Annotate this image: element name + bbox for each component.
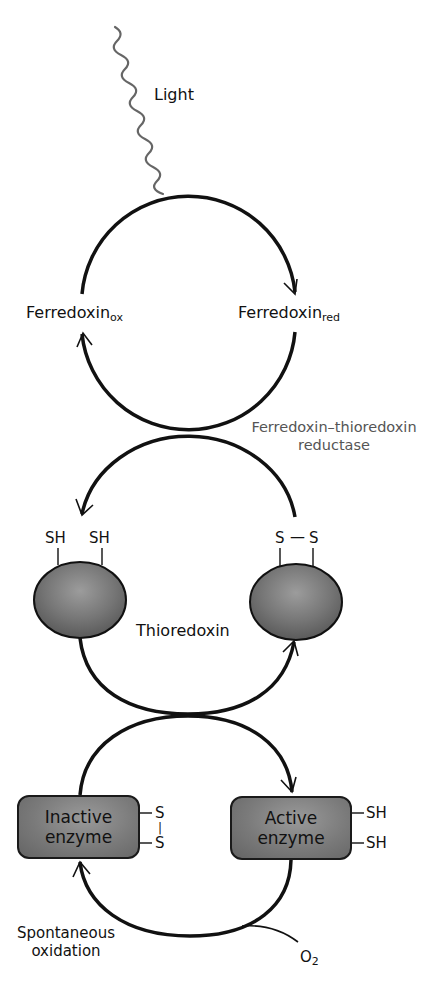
inactive-enzyme-box: Inactive enzyme — [17, 795, 140, 859]
s-group-1: S — [275, 530, 285, 546]
active-sh-group-1: SH — [366, 805, 387, 821]
sh-group-1: SH — [45, 530, 66, 546]
thioredoxin-label: Thioredoxin — [136, 622, 230, 640]
thioredoxin-reduced-oval — [34, 562, 126, 638]
thioredoxin-oxidized-oval — [250, 564, 342, 640]
disulfide-bond: — — [290, 529, 305, 545]
light-wave-icon — [114, 27, 163, 194]
inactive-s-group-2: S — [155, 835, 165, 851]
spontaneous-oxidation-label: Spontaneous oxidation — [12, 924, 120, 960]
sh-group-2: SH — [89, 530, 110, 546]
thioredoxin-arc — [80, 638, 298, 714]
oxygen-label: O2 — [300, 948, 319, 971]
ferredoxin-ox-label: Ferredoxinox — [26, 304, 123, 327]
ferredoxin-red-label: Ferredoxinred — [238, 304, 340, 327]
light-label: Light — [154, 86, 194, 104]
active-sh-group-2: SH — [366, 835, 387, 851]
ftr-enzyme-label: Ferredoxin–thioredoxin reductase — [240, 418, 428, 454]
oxygen-input-line — [242, 926, 298, 942]
active-enzyme-box: Active enzyme — [230, 796, 352, 860]
enzyme-activation-arc — [80, 716, 296, 795]
inactive-s-group-1: S — [155, 805, 165, 821]
s-group-2: S — [309, 530, 319, 546]
